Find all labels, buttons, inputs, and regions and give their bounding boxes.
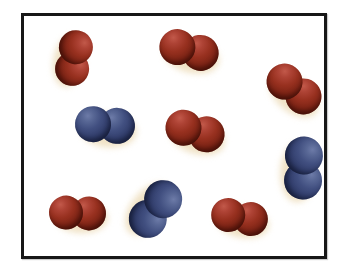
container-frame <box>21 13 327 259</box>
molecule-red-1 <box>52 27 95 88</box>
molecule-field <box>24 16 324 256</box>
molecule-red-6 <box>208 195 270 238</box>
molecule-red-4 <box>161 105 229 156</box>
figure-canvas <box>0 0 347 276</box>
molecule-blue-1 <box>74 105 136 145</box>
molecule-red-2 <box>156 25 223 74</box>
molecule-blue-2 <box>283 136 323 200</box>
molecule-red-5 <box>48 195 106 231</box>
molecule-blue-3 <box>121 172 190 245</box>
molecule-red-3 <box>259 56 324 121</box>
